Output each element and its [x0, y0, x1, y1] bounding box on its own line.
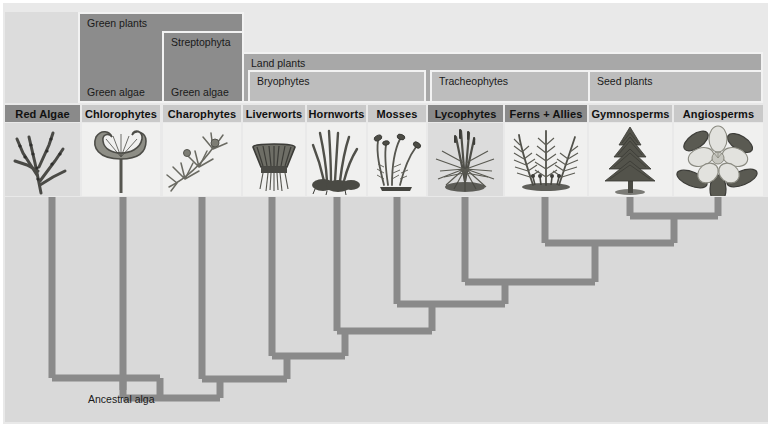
- taxon-image-hornworts: [307, 123, 366, 196]
- clade-sublabel-green-algae-2: Green algae: [171, 86, 229, 98]
- taxon-label-liverworts[interactable]: Liverworts: [243, 105, 305, 122]
- ancestral-alga-label: Ancestral alga: [88, 393, 155, 405]
- clade-label-streptophyta: Streptophyta: [171, 36, 231, 48]
- red-algae-header-block: [5, 12, 78, 103]
- clade-label-tracheophytes: Tracheophytes: [439, 75, 508, 87]
- clade-label-seed-plants: Seed plants: [597, 75, 652, 87]
- clade-band-streptophyta: Streptophyta Green algae: [162, 31, 244, 103]
- taxon-image-mosses: [368, 123, 426, 196]
- charophyte-icon: [163, 123, 241, 196]
- taxon-image-chlorophytes: [82, 123, 160, 196]
- flower-icon: [674, 123, 763, 196]
- conifer-icon: [589, 123, 672, 196]
- taxon-image-lycophytes: [428, 123, 503, 196]
- lycophyte-icon: [428, 123, 503, 196]
- taxon-label-red-algae[interactable]: Red Algae: [5, 105, 80, 122]
- moss-icon: [368, 123, 426, 196]
- taxon-image-charophytes: [163, 123, 241, 196]
- hornwort-icon: [307, 123, 366, 196]
- clade-band-seed-plants: Seed plants: [588, 70, 763, 103]
- liverwort-icon: [243, 123, 305, 196]
- taxon-label-angiosperms[interactable]: Angiosperms: [674, 105, 763, 122]
- taxon-label-hornworts[interactable]: Hornworts: [307, 105, 366, 122]
- taxon-label-charophytes[interactable]: Charophytes: [163, 105, 241, 122]
- taxon-label-gymnosperms[interactable]: Gymnosperms: [589, 105, 672, 122]
- taxon-image-red-algae: [5, 123, 80, 196]
- taxon-label-lycophytes[interactable]: Lycophytes: [428, 105, 503, 122]
- taxon-image-gymnosperms: [589, 123, 672, 196]
- cladogram-panel: [5, 197, 768, 422]
- clade-label-bryophytes: Bryophytes: [257, 75, 310, 87]
- taxon-image-ferns-allies: [505, 123, 587, 196]
- clade-sublabel-green-algae-1: Green algae: [87, 86, 145, 98]
- chlorophyte-icon: [82, 123, 160, 196]
- red-algae-icon: [5, 123, 80, 196]
- taxon-label-ferns-allies[interactable]: Ferns + Allies: [505, 105, 587, 122]
- taxon-label-mosses[interactable]: Mosses: [368, 105, 426, 122]
- fern-icon: [505, 123, 587, 196]
- figure-root: Green plants Green algae Streptophyta Gr…: [0, 0, 771, 427]
- cladogram-svg: [5, 197, 768, 422]
- taxon-label-chlorophytes[interactable]: Chlorophytes: [82, 105, 160, 122]
- clade-label-green-plants: Green plants: [87, 17, 147, 29]
- taxon-image-liverworts: [243, 123, 305, 196]
- clade-band-bryophytes: Bryophytes: [248, 70, 426, 103]
- taxon-image-angiosperms: [674, 123, 763, 196]
- taxon-name-row: Red Algae Chlorophytes Charophytes Liver…: [0, 105, 771, 122]
- clade-label-land-plants: Land plants: [251, 57, 305, 69]
